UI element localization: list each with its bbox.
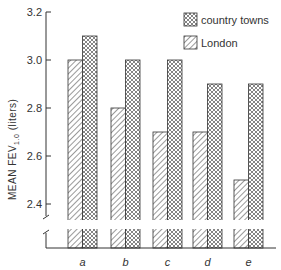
- bar-group-c: [153, 60, 182, 248]
- bars: [68, 36, 263, 248]
- x-tick-label: e: [245, 256, 251, 268]
- bar-country-towns-b: [126, 60, 141, 248]
- bar-london-c: [153, 132, 168, 248]
- y-tick-label: 2.4: [27, 198, 42, 210]
- bar-group-a: [68, 36, 97, 248]
- legend: country townsLondon: [184, 13, 269, 49]
- bar-london-e: [234, 180, 249, 248]
- legend-label: London: [201, 37, 238, 49]
- x-tick-label: b: [122, 256, 128, 268]
- x-tick-label: a: [79, 256, 85, 268]
- break-band: [47, 220, 267, 229]
- bar-group-b: [111, 60, 140, 248]
- legend-label: country towns: [201, 14, 269, 26]
- bar-chart: 2.42.62.83.03.2 abcde country townsLondo…: [0, 0, 281, 270]
- x-axis: abcde: [46, 248, 276, 268]
- y-axis-title: MEAN FEV1.0 (liters): [7, 99, 20, 200]
- x-tick-label: c: [165, 256, 171, 268]
- legend-swatch-country-towns: [184, 13, 197, 26]
- y-axis-label: MEAN FEV1.0 (liters): [7, 99, 20, 200]
- y-tick-label: 2.6: [27, 150, 42, 162]
- bar-london-d: [193, 132, 208, 248]
- bar-london-a: [68, 60, 83, 248]
- y-tick-label: 3.2: [27, 6, 42, 18]
- y-tick-label: 3.0: [27, 54, 42, 66]
- y-tick-label: 2.8: [27, 102, 42, 114]
- bar-country-towns-a: [83, 36, 98, 248]
- bar-country-towns-c: [168, 60, 183, 248]
- y-axis: 2.42.62.83.03.2: [27, 6, 51, 248]
- legend-swatch-london: [184, 36, 197, 49]
- x-tick-label: d: [204, 256, 211, 268]
